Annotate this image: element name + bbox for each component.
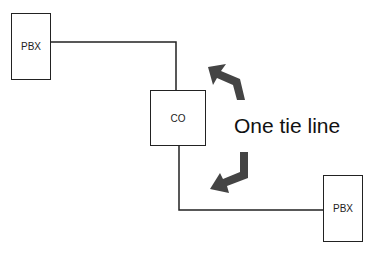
arrow-down-left-icon	[210, 152, 248, 193]
pbx-left-node: PBX	[11, 13, 51, 80]
link-co-to-pbx-right	[179, 146, 323, 210]
arrow-up-left-icon	[208, 64, 245, 100]
pbx-left-label: PBX	[21, 41, 41, 52]
diagram-canvas: PBX CO PBX One tie line	[0, 0, 374, 255]
co-node: CO	[150, 90, 206, 146]
link-pbx-left-to-co	[51, 42, 176, 90]
co-label: CO	[171, 113, 186, 124]
tie-line-annotation: One tie line	[234, 114, 340, 138]
pbx-right-label: PBX	[333, 203, 353, 214]
pbx-right-node: PBX	[323, 175, 363, 242]
